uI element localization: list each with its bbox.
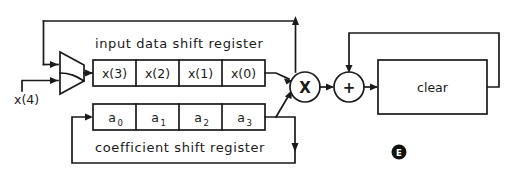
coefficient-cell-1-subscript: 1 bbox=[161, 118, 166, 128]
mux-to-input-register-wire bbox=[84, 70, 93, 77]
adder-symbol: + bbox=[343, 79, 356, 97]
coefficient-cell-0-base: a bbox=[108, 110, 116, 125]
external-input-wire bbox=[22, 77, 58, 91]
fir-filter-block-diagram: x(3) x(2) x(1) x(0) input data shift reg… bbox=[0, 0, 514, 180]
coefficient-shift-register: a 0 a 1 a 2 a 3 bbox=[93, 104, 265, 130]
input-register-cell-1-label: x(2) bbox=[145, 66, 170, 81]
arrow-into-mux-bottom bbox=[50, 77, 58, 84]
coefficient-cell-2-base: a bbox=[194, 110, 202, 125]
arrow-into-input-register bbox=[85, 70, 93, 77]
input-register-cell-0-label: x(3) bbox=[102, 66, 127, 81]
arrow-down-coefficient-feedback bbox=[292, 143, 299, 152]
adder: + bbox=[334, 72, 364, 102]
arrow-into-coefficient-register bbox=[85, 114, 93, 121]
adder-to-accumulator-wire bbox=[364, 84, 378, 91]
coefficient-cell-2-subscript: 2 bbox=[204, 118, 209, 128]
input-data-shift-register: x(3) x(2) x(1) x(0) bbox=[93, 60, 265, 86]
multiplier-to-adder-wire bbox=[320, 84, 334, 91]
coefficient-cell-3-base: a bbox=[237, 110, 245, 125]
figure-badge: E bbox=[392, 145, 407, 160]
arrow-into-mux-top bbox=[50, 61, 58, 68]
multiplier: X bbox=[290, 72, 320, 102]
coefficient-shift-register-title: coefficient shift register bbox=[95, 140, 265, 155]
coefficient-cell-1-base: a bbox=[151, 110, 159, 125]
input-data-shift-register-title: input data shift register bbox=[95, 36, 263, 51]
input-multiplexer bbox=[60, 52, 84, 94]
diagram-canvas: x(3) x(2) x(1) x(0) input data shift reg… bbox=[0, 0, 514, 180]
coefficient-cell-3-subscript: 3 bbox=[247, 118, 252, 128]
input-register-to-multiplier-wire bbox=[265, 73, 293, 85]
input-register-cell-2-label: x(1) bbox=[188, 66, 213, 81]
arrow-into-accumulator bbox=[370, 84, 378, 91]
coefficient-cell-0-subscript: 0 bbox=[118, 118, 123, 128]
multiplier-symbol: X bbox=[299, 79, 311, 97]
accumulator-label: clear bbox=[417, 80, 449, 95]
accumulator-register: clear bbox=[378, 60, 487, 114]
arrow-into-adder-left bbox=[326, 84, 334, 91]
external-input-label: x(4) bbox=[14, 92, 39, 107]
figure-badge-letter: E bbox=[396, 148, 402, 158]
input-register-cell-3-label: x(0) bbox=[231, 66, 256, 81]
coefficient-to-multiplier-wire bbox=[276, 90, 292, 117]
